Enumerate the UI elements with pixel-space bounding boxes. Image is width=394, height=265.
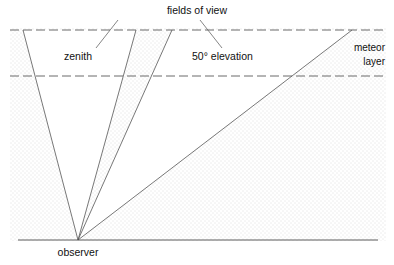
meteor-layer-label-line1: meteor — [354, 42, 386, 53]
observer-label: observer — [58, 246, 99, 258]
fields-of-view-label: fields of view — [167, 4, 228, 16]
zenith-label: zenith — [64, 50, 92, 62]
meteor-layer-label-line2: layer — [363, 56, 385, 67]
elevation-label: 50° elevation — [192, 50, 253, 62]
diagram-canvas: fields of view zenith 50° elevation mete… — [0, 0, 394, 265]
meteor-fields-of-view-diagram: fields of view zenith 50° elevation mete… — [0, 0, 394, 265]
